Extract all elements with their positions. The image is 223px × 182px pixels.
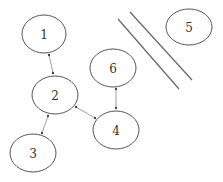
arrowhead-icon — [75, 106, 77, 108]
arrowhead-icon — [115, 107, 117, 109]
diagram-svg: 123456 — [0, 0, 223, 182]
connector-line — [49, 55, 53, 73]
connector-line — [76, 107, 95, 118]
edge-2-4 — [75, 106, 96, 119]
connector-line — [42, 116, 48, 133]
node-5: 5 — [166, 9, 212, 45]
node-label: 3 — [29, 147, 37, 161]
edge-1-2 — [48, 54, 54, 74]
arrowhead-icon — [47, 115, 49, 117]
node-label: 6 — [109, 62, 117, 76]
node-label: 5 — [185, 21, 193, 35]
arrowhead-icon — [94, 117, 96, 119]
node-4: 4 — [93, 111, 139, 149]
node-label: 4 — [112, 124, 120, 138]
node-6: 6 — [90, 49, 136, 87]
node-3: 3 — [10, 134, 56, 172]
arrowhead-icon — [115, 88, 117, 90]
edge-6-4 — [115, 88, 117, 109]
nodes: 123456 — [10, 9, 212, 172]
node-label: 2 — [51, 89, 59, 103]
edge-2-3 — [41, 115, 49, 134]
node-label: 1 — [40, 28, 48, 42]
arrowhead-icon — [41, 132, 43, 134]
arrowhead-icon — [48, 54, 50, 56]
node-2: 2 — [32, 76, 78, 114]
diagram-canvas: 123456 — [0, 0, 223, 182]
arrowhead-icon — [52, 72, 54, 74]
node-1: 1 — [22, 15, 66, 53]
